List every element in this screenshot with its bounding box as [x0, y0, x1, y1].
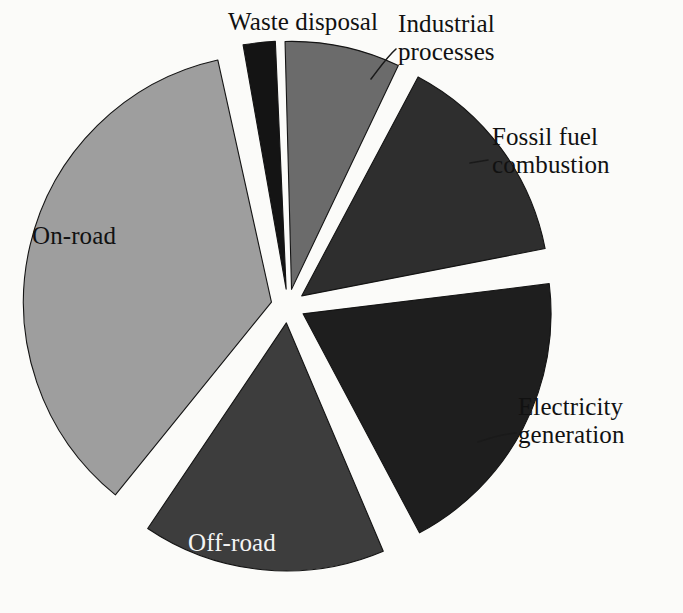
pie-label-line: Waste disposal: [228, 8, 378, 36]
pie-label-on-road: On-road: [32, 222, 116, 250]
pie-label-line: generation: [518, 421, 625, 449]
pie-label-line: Off-road: [188, 529, 276, 557]
pie-label-line: Industrial: [398, 10, 495, 38]
pie-label-waste-disposal: Waste disposal: [228, 8, 378, 36]
pie-slices-group: [23, 41, 551, 571]
pie-label-off-road: Off-road: [188, 529, 276, 557]
pie-label-industrial-processes: Industrialprocesses: [398, 10, 495, 66]
pie-label-line: Fossil fuel: [492, 123, 610, 151]
pie-label-electricity-generation: Electricitygeneration: [518, 393, 625, 449]
pie-chart-figure: Waste disposalIndustrialprocessesFossil …: [0, 0, 683, 613]
pie-label-line: processes: [398, 38, 495, 66]
pie-chart-canvas: [0, 0, 683, 613]
pie-label-fossil-fuel-combustion: Fossil fuelcombustion: [492, 123, 610, 179]
pie-label-line: Electricity: [518, 393, 625, 421]
pie-label-line: combustion: [492, 151, 610, 179]
pie-label-line: On-road: [32, 222, 116, 250]
